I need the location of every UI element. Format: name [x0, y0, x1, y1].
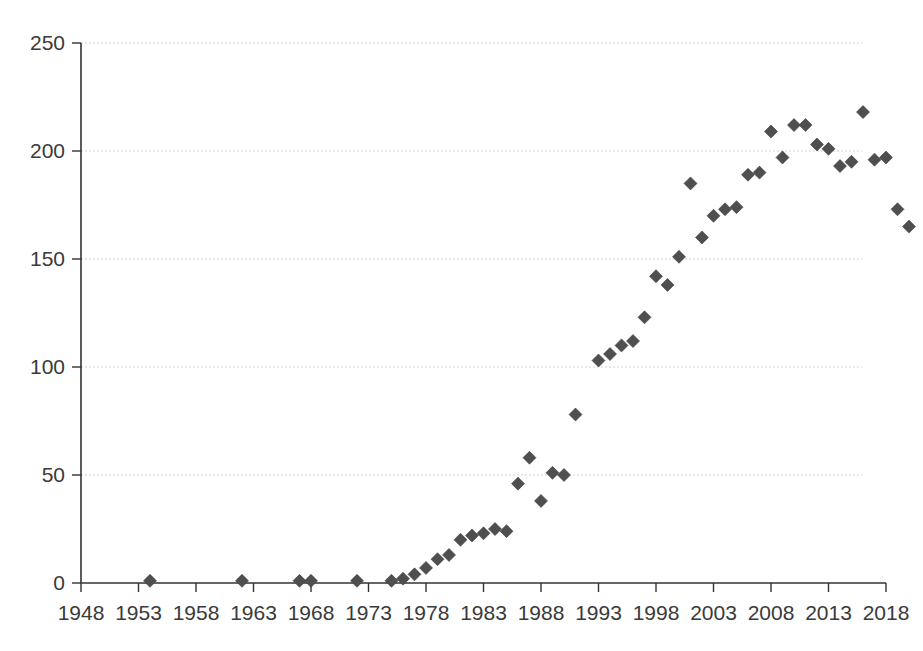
- x-tick-label-1963: 1963: [230, 601, 277, 624]
- data-point: [512, 477, 525, 490]
- data-point: [742, 168, 755, 181]
- data-point: [535, 494, 548, 507]
- x-tick-label-2008: 2008: [748, 601, 795, 624]
- data-point: [431, 553, 444, 566]
- data-point: [627, 335, 640, 348]
- scatter-chart: 050100150200250 194819531958196319681973…: [0, 0, 923, 651]
- data-point: [385, 574, 398, 587]
- data-point: [420, 561, 433, 574]
- x-tick-label-1953: 1953: [115, 601, 162, 624]
- data-point: [144, 574, 157, 587]
- data-point: [489, 523, 502, 536]
- x-tick-label-1998: 1998: [633, 601, 680, 624]
- x-tick-label-1993: 1993: [575, 601, 622, 624]
- data-point: [845, 155, 858, 168]
- data-point: [638, 311, 651, 324]
- x-tick-label-1948: 1948: [58, 601, 105, 624]
- x-axis-group: [81, 583, 886, 592]
- data-point: [351, 574, 364, 587]
- data-point: [753, 166, 766, 179]
- data-point: [236, 574, 249, 587]
- data-point: [719, 203, 732, 216]
- data-points-group: [144, 106, 916, 588]
- data-point: [650, 270, 663, 283]
- data-point: [822, 142, 835, 155]
- data-point: [305, 574, 318, 587]
- y-tick-label-50: 50: [42, 463, 65, 486]
- data-point: [604, 348, 617, 361]
- data-point: [765, 125, 778, 138]
- y-tick-label-250: 250: [30, 31, 65, 54]
- data-point: [707, 209, 720, 222]
- data-point: [443, 548, 456, 561]
- x-tick-label-2013: 2013: [805, 601, 852, 624]
- x-tick-label-2003: 2003: [690, 601, 737, 624]
- data-point: [868, 153, 881, 166]
- data-point: [834, 160, 847, 173]
- x-tick-label-1978: 1978: [403, 601, 450, 624]
- y-tick-label-100: 100: [30, 355, 65, 378]
- data-point: [477, 527, 490, 540]
- x-tick-label-1973: 1973: [345, 601, 392, 624]
- data-point: [730, 201, 743, 214]
- data-point: [661, 278, 674, 291]
- data-point: [546, 466, 559, 479]
- x-tick-label-2018: 2018: [863, 601, 910, 624]
- y-tick-labels-group: 050100150200250: [30, 31, 65, 594]
- data-point: [811, 138, 824, 151]
- data-point: [558, 469, 571, 482]
- data-point: [673, 250, 686, 263]
- data-point: [880, 151, 893, 164]
- x-tick-label-1988: 1988: [518, 601, 565, 624]
- y-tick-label-150: 150: [30, 247, 65, 270]
- x-tick-label-1958: 1958: [173, 601, 220, 624]
- data-point: [408, 568, 421, 581]
- data-point: [523, 451, 536, 464]
- y-tick-label-200: 200: [30, 139, 65, 162]
- data-point: [293, 574, 306, 587]
- data-point: [696, 231, 709, 244]
- data-point: [857, 106, 870, 119]
- data-point: [500, 525, 513, 538]
- data-point: [684, 177, 697, 190]
- x-tick-label-1983: 1983: [460, 601, 507, 624]
- gridlines-group: [81, 43, 862, 475]
- data-point: [569, 408, 582, 421]
- data-point: [799, 119, 812, 132]
- data-point: [903, 220, 916, 233]
- y-tick-label-0: 0: [53, 571, 65, 594]
- data-point: [891, 203, 904, 216]
- data-point: [788, 119, 801, 132]
- data-point: [466, 529, 479, 542]
- chart-figure: 050100150200250 194819531958196319681973…: [0, 0, 923, 651]
- data-point: [615, 339, 628, 352]
- y-axis-group: [72, 43, 81, 583]
- data-point: [454, 533, 467, 546]
- data-point: [776, 151, 789, 164]
- x-tick-label-1968: 1968: [288, 601, 335, 624]
- x-tick-labels-group: 1948195319581963196819731978198319881993…: [58, 601, 910, 624]
- data-point: [592, 354, 605, 367]
